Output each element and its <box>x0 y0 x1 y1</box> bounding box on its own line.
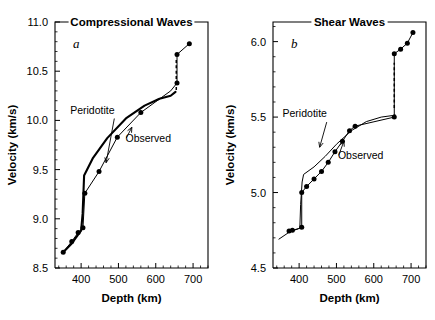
x-axis-title: Depth (km) <box>101 292 161 304</box>
panel-letter: a <box>73 36 80 51</box>
data-point <box>290 228 295 233</box>
series-peridotite-line <box>63 92 175 252</box>
x-tick-label: 400 <box>72 273 90 285</box>
data-point <box>304 184 309 189</box>
data-point <box>405 41 410 46</box>
data-point <box>312 176 317 181</box>
data-point <box>398 47 403 52</box>
data-point <box>353 124 358 129</box>
y-tick-label: 4.5 <box>251 262 266 274</box>
data-point <box>82 191 87 196</box>
data-point <box>69 239 74 244</box>
y-tick-label: 11.0 <box>27 16 48 28</box>
data-point <box>347 128 352 133</box>
data-point <box>76 230 81 235</box>
x-tick-label: 400 <box>290 273 308 285</box>
y-tick-label: 9.0 <box>33 213 48 225</box>
chart-panel-compressional: Compressional Waves8.59.09.510.010.511.0… <box>0 0 217 320</box>
data-point <box>175 52 180 57</box>
y-tick-label: 8.5 <box>33 262 48 274</box>
panel-letter: b <box>291 36 298 51</box>
x-tick-label: 700 <box>184 273 202 285</box>
chart-frame-left <box>55 22 69 268</box>
chart-frame-right <box>273 22 426 268</box>
data-point <box>326 160 331 165</box>
y-tick-label: 5.5 <box>251 111 266 123</box>
shear-waves-chart: Shear Waves4.55.05.56.0400500600700Depth… <box>218 0 435 320</box>
seismic-velocity-figure: Compressional Waves8.59.09.510.010.511.0… <box>0 0 435 320</box>
curve-label-observed: Observed <box>126 132 172 144</box>
data-point <box>410 30 415 35</box>
x-tick-label: 600 <box>147 273 165 285</box>
compressional-waves-chart: Compressional Waves8.59.09.510.010.511.0… <box>0 0 217 320</box>
data-point <box>175 81 180 86</box>
data-point <box>332 149 337 154</box>
curve-label-peridotite: Peridotite <box>70 104 115 116</box>
x-tick-label: 700 <box>402 273 420 285</box>
y-axis-title: Velocity (km/s) <box>224 105 236 186</box>
data-point <box>115 135 120 140</box>
data-point <box>392 51 397 56</box>
curve-label-peridotite: Peridotite <box>283 107 328 119</box>
y-tick-label: 9.5 <box>33 164 48 176</box>
y-tick-label: 10.0 <box>27 114 48 126</box>
x-tick-label: 600 <box>365 273 383 285</box>
data-point <box>61 250 66 255</box>
data-point <box>299 190 304 195</box>
x-tick-label: 500 <box>109 273 127 285</box>
chart-panel-shear: Shear Waves4.55.05.56.0400500600700Depth… <box>218 0 435 320</box>
curve-label-observed: Observed <box>338 149 384 161</box>
y-tick-label: 6.0 <box>251 36 266 48</box>
x-axis-title: Depth (km) <box>319 292 379 304</box>
chart-title: Compressional Waves <box>70 16 192 28</box>
data-point <box>97 169 102 174</box>
data-point <box>319 169 324 174</box>
data-point <box>187 41 192 46</box>
series-peridotite-line <box>279 115 396 240</box>
data-point <box>392 115 397 120</box>
y-tick-label: 5.0 <box>251 187 266 199</box>
chart-title: Shear Waves <box>314 16 385 28</box>
data-point <box>138 110 143 115</box>
data-point <box>80 225 85 230</box>
x-tick-label: 500 <box>327 273 345 285</box>
data-point <box>299 225 304 230</box>
y-axis-title: Velocity (km/s) <box>6 105 18 186</box>
y-tick-label: 10.5 <box>27 65 48 77</box>
